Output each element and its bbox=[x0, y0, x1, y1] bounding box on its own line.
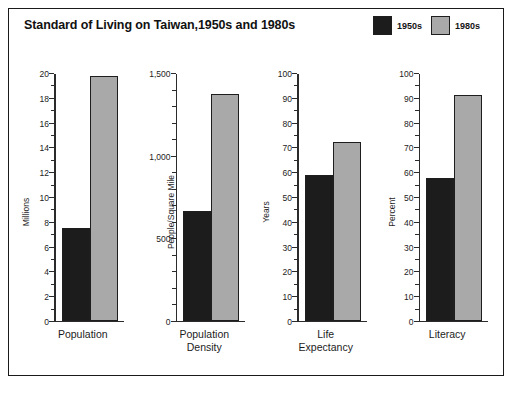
x-axis-line bbox=[297, 321, 367, 323]
y-tick-label: 8 bbox=[44, 218, 49, 228]
y-tick-major bbox=[49, 147, 54, 148]
y-tick-major bbox=[49, 296, 54, 297]
y-tick-major bbox=[171, 156, 176, 157]
y-tick-minor bbox=[294, 309, 298, 310]
y-tick-minor bbox=[415, 185, 419, 186]
y-tick-major bbox=[292, 222, 297, 223]
y-tick-minor bbox=[172, 172, 176, 173]
y-tick-label: 20 bbox=[404, 267, 413, 277]
y-tick-minor bbox=[294, 85, 298, 86]
y-tick-minor bbox=[51, 110, 55, 111]
x-axis-label-line: Population bbox=[156, 328, 254, 341]
y-tick-minor bbox=[294, 135, 298, 136]
y-tick-major bbox=[414, 73, 419, 74]
bar-group bbox=[177, 74, 245, 321]
y-axis-title: Percent bbox=[386, 197, 396, 226]
x-axis-line bbox=[419, 321, 489, 323]
panel-population: Millions02468101214161820Population bbox=[10, 56, 132, 368]
y-tick-label: 10 bbox=[40, 193, 49, 203]
y-tick-major bbox=[171, 238, 176, 239]
y-tick-minor bbox=[294, 284, 298, 285]
y-tick-minor bbox=[172, 189, 176, 190]
y-tick-label: 16 bbox=[40, 119, 49, 129]
y-tick-major bbox=[171, 321, 176, 322]
y-tick-major bbox=[49, 197, 54, 198]
plot-area: 05001,0001,500 bbox=[176, 74, 246, 322]
y-tick-label: 12 bbox=[40, 168, 49, 178]
chart-panels: Millions02468101214161820PopulationPeopl… bbox=[10, 56, 496, 368]
y-tick-label: 40 bbox=[283, 218, 292, 228]
y-tick-major bbox=[292, 271, 297, 272]
panel-literacy: Percent0102030405060708090100Literacy bbox=[375, 56, 497, 368]
y-tick-major bbox=[292, 98, 297, 99]
chart-header: Standard of Living on Taiwan,1950s and 1… bbox=[10, 12, 486, 46]
y-tick-label: 40 bbox=[404, 218, 413, 228]
y-tick-major bbox=[414, 296, 419, 297]
x-axis-line bbox=[176, 321, 246, 323]
y-tick-major bbox=[414, 222, 419, 223]
y-tick-label: 60 bbox=[283, 168, 292, 178]
y-tick-label: 1,500 bbox=[149, 69, 170, 79]
y-tick-major bbox=[49, 222, 54, 223]
y-tick-minor bbox=[172, 139, 176, 140]
y-tick-label: 4 bbox=[44, 267, 49, 277]
y-tick-label: 1,000 bbox=[149, 152, 170, 162]
x-axis-label-line: Expectancy bbox=[277, 341, 375, 354]
y-tick-minor bbox=[415, 209, 419, 210]
y-tick-minor bbox=[415, 85, 419, 86]
y-tick-major bbox=[414, 147, 419, 148]
y-tick-minor bbox=[51, 85, 55, 86]
y-tick-minor bbox=[172, 271, 176, 272]
y-tick-minor bbox=[51, 135, 55, 136]
y-tick-minor bbox=[51, 284, 55, 285]
y-tick-label: 18 bbox=[40, 94, 49, 104]
y-tick-label: 500 bbox=[156, 234, 170, 244]
y-tick-label: 80 bbox=[404, 119, 413, 129]
y-tick-minor bbox=[294, 234, 298, 235]
y-tick-minor bbox=[172, 90, 176, 91]
y-tick-label: 0 bbox=[166, 317, 171, 327]
y-tick-minor bbox=[172, 123, 176, 124]
y-tick-minor bbox=[172, 304, 176, 305]
x-axis-label: Population bbox=[34, 328, 132, 341]
y-tick-label: 30 bbox=[283, 243, 292, 253]
x-axis-label-line: Life bbox=[277, 328, 375, 341]
y-axis-title: Years bbox=[261, 201, 271, 222]
y-tick-label: 90 bbox=[404, 94, 413, 104]
y-tick-major bbox=[49, 73, 54, 74]
y-axis-title: Millions bbox=[21, 198, 31, 226]
bar-1950s bbox=[305, 175, 333, 320]
y-tick-major bbox=[414, 247, 419, 248]
y-tick-minor bbox=[172, 255, 176, 256]
y-tick-minor bbox=[415, 160, 419, 161]
x-axis-label: PopulationDensity bbox=[156, 328, 254, 354]
x-axis-label-line: Density bbox=[156, 341, 254, 354]
y-tick-minor bbox=[172, 205, 176, 206]
y-tick-major bbox=[49, 271, 54, 272]
bar-1980s bbox=[90, 76, 118, 320]
y-tick-label: 100 bbox=[278, 69, 292, 79]
y-tick-minor bbox=[415, 234, 419, 235]
y-tick-major bbox=[414, 123, 419, 124]
y-tick-label: 10 bbox=[283, 292, 292, 302]
y-tick-label: 20 bbox=[40, 69, 49, 79]
y-tick-major bbox=[49, 123, 54, 124]
y-tick-minor bbox=[172, 222, 176, 223]
y-tick-major bbox=[292, 197, 297, 198]
bar-1950s bbox=[62, 228, 90, 320]
y-tick-label: 70 bbox=[404, 143, 413, 153]
y-tick-major bbox=[49, 98, 54, 99]
bar-1980s bbox=[454, 95, 482, 321]
x-axis-label: Literacy bbox=[399, 328, 497, 341]
plot-area: 02468101214161820 bbox=[54, 74, 124, 322]
y-tick-major bbox=[292, 321, 297, 322]
y-tick-minor bbox=[415, 284, 419, 285]
y-tick-label: 100 bbox=[399, 69, 413, 79]
y-tick-minor bbox=[294, 259, 298, 260]
y-tick-minor bbox=[294, 160, 298, 161]
y-tick-major bbox=[171, 73, 176, 74]
y-tick-label: 80 bbox=[283, 119, 292, 129]
y-tick-major bbox=[292, 296, 297, 297]
legend-entry-1980s: 1980s bbox=[431, 16, 480, 35]
bar-1980s bbox=[211, 94, 239, 321]
